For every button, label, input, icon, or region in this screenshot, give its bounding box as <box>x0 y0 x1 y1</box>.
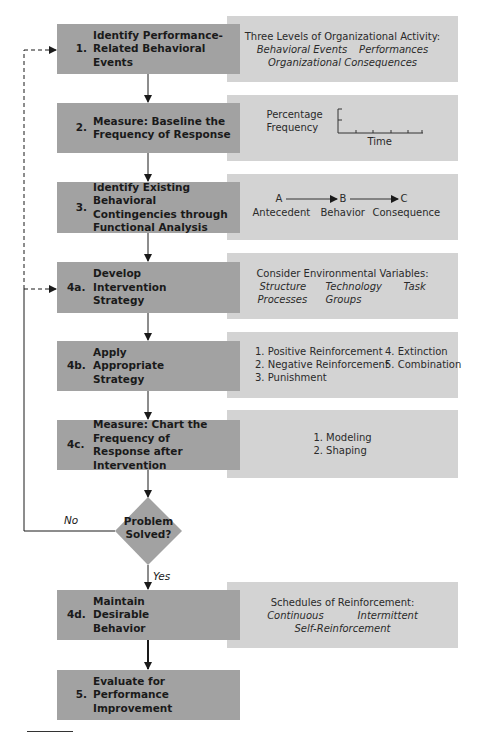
abc-arrows <box>253 192 433 206</box>
panel-strategies: 1. Positive Reinforcement 2. Negative Re… <box>227 332 458 398</box>
panel-abc: A B C Antecedent Behavior Consequence <box>227 174 458 240</box>
panel-levels: Three Levels of Organizational Activity:… <box>227 16 458 82</box>
mini-axis <box>263 106 423 150</box>
step-5: 5. Evaluate for Performance Improvement <box>57 670 240 720</box>
no-label: No <box>64 514 78 526</box>
step-1: 1. Identify Performance-Related Behavior… <box>57 24 240 74</box>
step-3: 3. Identify Existing Behavioral Continge… <box>57 182 240 233</box>
panel-schedules: Schedules of Reinforcement: Continuous I… <box>227 582 458 648</box>
step-4a: 4a. Develop Intervention Strategy <box>57 262 240 313</box>
panel-baseline-graph: Percentage Frequency Time <box>227 95 458 161</box>
decision-label: Problem Solved? <box>115 515 182 541</box>
step-4b: 4b. Apply Appropriate Strategy <box>57 341 240 391</box>
panel-title: Three Levels of Organizational Activity: <box>245 30 440 43</box>
yes-label: Yes <box>153 570 170 582</box>
step-2: 2. Measure: Baseline the Frequency of Re… <box>57 103 240 153</box>
step-4c: 4c. Measure: Chart the Frequency of Resp… <box>57 420 240 470</box>
panel-techniques: 1. Modeling 2. Shaping <box>227 410 458 478</box>
footnote-rule <box>27 731 73 732</box>
panel-env-variables: Consider Environmental Variables: Struct… <box>227 253 458 319</box>
step-4d: 4d. Maintain Desirable Behavior <box>57 590 240 640</box>
